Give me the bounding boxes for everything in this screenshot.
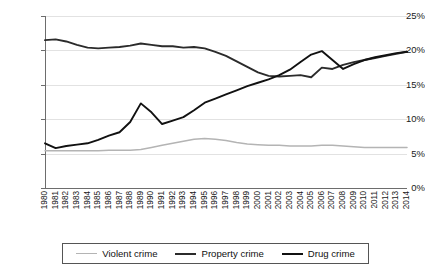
x-tick-label-2005: 2005 [307, 191, 315, 209]
legend-item-property-crime[interactable]: Property crime [175, 249, 263, 259]
x-tick-label-2010: 2010 [360, 191, 368, 209]
y-tick-label-25: 25% [391, 11, 425, 21]
x-tick-label-2007: 2007 [328, 191, 336, 209]
x-tick-label-1997: 1997 [222, 191, 230, 209]
y-axis-line [45, 16, 46, 189]
legend-label: Violent crime [102, 249, 157, 259]
legend-swatch-icon [175, 253, 196, 255]
x-tick-label-1990: 1990 [147, 191, 155, 209]
gridline-10 [45, 119, 407, 120]
x-tick-label-2012: 2012 [382, 191, 390, 209]
x-tick-label-1992: 1992 [169, 191, 177, 209]
x-tick-label-2002: 2002 [275, 191, 283, 209]
x-tick-label-1988: 1988 [126, 191, 134, 209]
x-tick-label-1999: 1999 [243, 191, 251, 209]
x-tick-label-1995: 1995 [201, 191, 209, 209]
y-tick-label-15: 15% [391, 80, 425, 90]
legend-label: Property crime [201, 249, 263, 259]
x-tick-label-2001: 2001 [265, 191, 273, 209]
x-tick-label-1994: 1994 [190, 191, 198, 209]
x-tick-label-1991: 1991 [158, 191, 166, 209]
x-tick-label-2003: 2003 [286, 191, 294, 209]
x-tick-label-2006: 2006 [318, 191, 326, 209]
x-tick-label-2011: 2011 [371, 191, 379, 209]
plot-area [45, 16, 407, 188]
x-axis-labels: 1980198119821983198419851986198719881989… [45, 191, 407, 237]
x-tick-label-1984: 1984 [84, 191, 92, 209]
x-tick-label-1998: 1998 [233, 191, 241, 209]
y-tick-label-10: 10% [391, 114, 425, 124]
legend-item-drug-crime[interactable]: Drug crime [282, 249, 355, 259]
x-tick-label-1980: 1980 [41, 191, 49, 209]
x-tick-label-2004: 2004 [297, 191, 305, 209]
x-tick-label-1993: 1993 [179, 191, 187, 209]
x-tick-label-1983: 1983 [73, 191, 81, 209]
legend-swatch-icon [76, 253, 97, 254]
legend-swatch-icon [282, 253, 303, 255]
x-tick-label-1982: 1982 [62, 191, 70, 209]
x-tick-label-2013: 2013 [392, 191, 400, 209]
x-tick-label-1989: 1989 [137, 191, 145, 209]
x-tick-label-1996: 1996 [211, 191, 219, 209]
y-tick-label-20: 20% [391, 45, 425, 55]
x-tick-label-1986: 1986 [105, 191, 113, 209]
x-tick-label-2009: 2009 [350, 191, 358, 209]
legend-label: Drug crime [308, 249, 355, 259]
x-axis-line [45, 188, 407, 189]
gridline-25 [45, 16, 407, 17]
x-tick-label-2014: 2014 [403, 191, 411, 209]
gridline-15 [45, 85, 407, 86]
legend-item-violent-crime[interactable]: Violent crime [76, 249, 157, 259]
x-tick-label-1987: 1987 [116, 191, 124, 209]
x-tick-label-1981: 1981 [52, 191, 60, 209]
gridline-20 [45, 50, 407, 51]
x-tick-label-2008: 2008 [339, 191, 347, 209]
x-tick-label-2000: 2000 [254, 191, 262, 209]
chart-legend: Violent crimeProperty crimeDrug crime [62, 243, 369, 264]
gridline-5 [45, 154, 407, 155]
x-tick-label-1985: 1985 [94, 191, 102, 209]
y-tick-label-5: 5% [391, 149, 425, 159]
line-chart: 0%5%10%15%20%25% 19801981198219831984198… [0, 0, 425, 268]
